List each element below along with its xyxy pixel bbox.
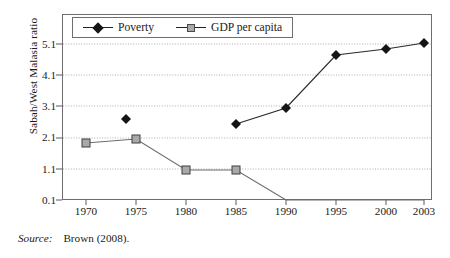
grid-lines <box>63 44 431 169</box>
series-markers-poverty <box>121 38 429 129</box>
source-citation: Brown (2008). <box>63 232 129 244</box>
diamond-marker-icon <box>83 22 113 33</box>
chart-canvas <box>0 0 450 258</box>
chart-legend[interactable]: Poverty GDP per capita <box>72 17 293 38</box>
data-point-poverty-2003 <box>419 38 429 48</box>
series-line-gdp-per-capita <box>86 139 424 200</box>
data-point-poverty-1985 <box>231 119 241 129</box>
data-point-gdp-1980 <box>182 166 190 174</box>
data-point-gdp-1975 <box>132 135 140 143</box>
figure-container: Sabah/West Malasia ratio 0.1 1.1 2.1 3.1… <box>0 0 450 258</box>
y-axis-ticks <box>56 44 62 200</box>
series-line-poverty <box>236 43 424 124</box>
data-point-poverty-1975 <box>121 114 131 124</box>
source-note: Source:Brown (2008). <box>18 232 129 244</box>
data-point-gdp-1985 <box>232 166 240 174</box>
source-label: Source: <box>18 232 52 244</box>
legend-entry-poverty[interactable]: Poverty <box>83 21 154 34</box>
legend-label-gdp-per-capita: GDP per capita <box>211 21 282 34</box>
data-point-poverty-2000 <box>381 44 391 54</box>
x-axis-ticks <box>86 200 424 205</box>
square-marker-icon <box>176 22 206 33</box>
legend-entry-gdp-per-capita[interactable]: GDP per capita <box>176 21 282 34</box>
data-point-gdp-1970 <box>82 139 90 147</box>
legend-label-poverty: Poverty <box>118 21 154 34</box>
